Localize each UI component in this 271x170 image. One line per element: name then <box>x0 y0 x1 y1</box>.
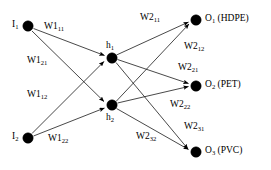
edge-h2-o3 <box>117 109 189 150</box>
weight-label-w2-12-sub: 12 <box>198 45 205 52</box>
weight-label-w2-11: W211 <box>140 13 160 23</box>
node-label-o2-sub: 2 <box>212 83 215 90</box>
node-hidden-h1 <box>107 53 117 63</box>
node-label-i2-sub: 2 <box>15 135 18 142</box>
weight-label-w2-11-sub: 11 <box>154 16 160 23</box>
node-output-o3 <box>191 147 201 157</box>
weight-label-w2-32-sub: 32 <box>150 135 157 142</box>
node-label-o3-material: (PVC) <box>215 145 242 155</box>
weight-label-w2-11-base: W2 <box>140 12 154 22</box>
weight-label-w2-21-sub: 21 <box>192 66 199 73</box>
weight-label-w1-12-sub: 12 <box>41 93 48 100</box>
node-label-i1: I1 <box>12 20 18 30</box>
weight-label-w1-11-sub: 11 <box>58 25 64 32</box>
weight-label-w2-21: W221 <box>178 63 198 73</box>
weight-label-w1-21-base: W1 <box>27 55 41 65</box>
edge-i1-h1 <box>34 29 105 56</box>
node-label-o3: O3 (PVC) <box>205 146 242 156</box>
node-label-h2-sub: 2 <box>111 116 114 123</box>
weight-label-w1-22: W122 <box>48 134 68 144</box>
weight-label-w2-22-base: W2 <box>170 99 184 109</box>
node-label-h1: h1 <box>106 41 114 51</box>
node-label-o1-sub: 1 <box>212 17 215 24</box>
weight-label-w1-21: W121 <box>27 56 47 66</box>
weight-label-w2-22-sub: 22 <box>184 103 191 110</box>
node-label-o1-material: (HDPE) <box>215 13 249 23</box>
node-output-o2 <box>191 81 201 91</box>
node-label-o3-sub: 3 <box>212 149 215 156</box>
weight-label-w2-12-base: W2 <box>184 41 198 51</box>
weight-label-w2-31-base: W2 <box>184 121 198 131</box>
weight-label-w2-31: W231 <box>184 122 204 132</box>
node-label-o2: O2 (PET) <box>205 80 241 90</box>
node-input-i2 <box>23 133 33 143</box>
weight-label-w1-22-base: W1 <box>48 133 62 143</box>
weight-label-w2-32-base: W2 <box>136 131 150 141</box>
node-label-i2: I2 <box>12 132 18 142</box>
weight-label-w1-21-sub: 21 <box>41 59 48 66</box>
node-label-h1-sub: 1 <box>111 44 114 51</box>
weight-label-w1-11: W111 <box>44 22 64 32</box>
neural-network-diagram: I1 I2 h1 h2 O1 (HDPE) O2 (PET) O3 (PVC) … <box>0 0 271 170</box>
weight-label-w2-21-base: W2 <box>178 62 192 72</box>
node-label-o1-base: O <box>205 13 212 23</box>
node-label-h2: h2 <box>106 113 114 123</box>
weight-label-w1-12: W112 <box>27 90 47 100</box>
edge-i2-h2 <box>34 108 105 136</box>
node-hidden-h2 <box>107 100 117 110</box>
node-label-i1-sub: 1 <box>15 23 18 30</box>
weight-label-w1-11-base: W1 <box>44 21 58 31</box>
weight-label-w1-22-sub: 22 <box>62 137 69 144</box>
weight-label-w2-32: W232 <box>136 132 156 142</box>
edge-h1-o1 <box>117 22 189 55</box>
node-label-o1: O1 (HDPE) <box>205 14 249 24</box>
node-label-o2-material: (PET) <box>215 79 241 89</box>
weight-label-w1-12-base: W1 <box>27 89 41 99</box>
node-label-o2-base: O <box>205 79 212 89</box>
weight-label-w2-22: W222 <box>170 100 190 110</box>
node-input-i1 <box>23 21 33 31</box>
weight-label-w2-31-sub: 31 <box>198 125 205 132</box>
node-output-o1 <box>191 15 201 25</box>
weight-label-w2-12: W212 <box>184 42 204 52</box>
node-label-o3-base: O <box>205 145 212 155</box>
